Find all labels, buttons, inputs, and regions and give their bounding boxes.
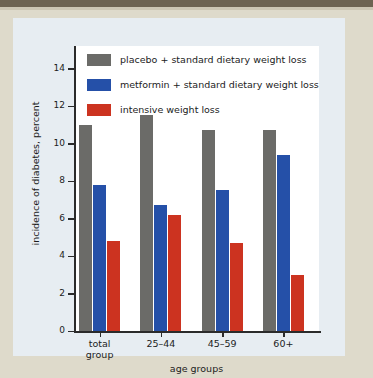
legend-label: intensive weight loss — [120, 104, 220, 115]
bar-intensive — [230, 243, 243, 331]
x-axis-category-label: total group — [70, 338, 130, 360]
y-axis-tick — [68, 68, 75, 70]
legend-item: intensive weight loss — [87, 100, 317, 119]
page-background: 02468101214 incidence of diabetes, perce… — [0, 0, 373, 378]
page-top-band — [0, 0, 373, 7]
y-axis-tick — [68, 143, 75, 145]
bar-intensive — [168, 215, 181, 331]
y-axis-tick-label: 0 — [59, 326, 65, 335]
legend-item: metformin + standard dietary weight loss — [87, 75, 317, 94]
figure-panel: 02468101214 incidence of diabetes, perce… — [13, 18, 345, 356]
bar-placebo — [202, 130, 215, 331]
chart-legend: placebo + standard dietary weight loss m… — [87, 50, 317, 125]
y-axis-tick — [68, 331, 75, 333]
bar-placebo — [79, 125, 92, 331]
y-axis-tick — [68, 181, 75, 183]
legend-label: placebo + standard dietary weight loss — [120, 54, 307, 65]
y-axis-tick-label: 14 — [54, 64, 65, 73]
bar-intensive — [107, 241, 120, 331]
legend-label: metformin + standard dietary weight loss — [120, 79, 319, 90]
bar-metformin — [277, 155, 290, 331]
y-axis-tick-label: 6 — [59, 214, 65, 223]
y-axis-tick-label: 8 — [59, 176, 65, 185]
legend-swatch-intensive-icon — [87, 104, 111, 116]
bar-metformin — [216, 190, 229, 331]
x-axis-tick — [100, 331, 102, 337]
x-axis-title: age groups — [74, 363, 319, 374]
y-axis-tick — [68, 256, 75, 258]
x-axis-category-label: 25–44 — [131, 338, 191, 349]
y-axis-tick-label: 12 — [54, 101, 65, 110]
y-axis-tick-label: 4 — [59, 251, 65, 260]
y-axis-tick — [68, 106, 75, 108]
bar-metformin — [154, 205, 167, 331]
x-axis-tick — [222, 331, 224, 337]
x-axis-category-label: 45–59 — [192, 338, 252, 349]
x-axis-category-label: 60+ — [253, 338, 313, 349]
bar-placebo — [263, 130, 276, 331]
legend-swatch-placebo-icon — [87, 54, 111, 66]
y-axis-tick-label: 2 — [59, 289, 65, 298]
bar-intensive — [291, 275, 304, 331]
x-axis-tick — [161, 331, 163, 337]
page-top-band-secondary — [0, 7, 373, 10]
x-axis-ticks — [74, 331, 319, 332]
bar-metformin — [93, 185, 106, 331]
x-axis-tick — [283, 331, 285, 337]
legend-item: placebo + standard dietary weight loss — [87, 50, 317, 69]
legend-swatch-metformin-icon — [87, 79, 111, 91]
y-axis-tick — [68, 218, 75, 220]
y-axis-tick-label: 10 — [54, 139, 65, 148]
y-axis-tick — [68, 293, 75, 295]
y-axis-title: incidence of diabetes, percent — [30, 89, 41, 259]
bar-placebo — [140, 115, 153, 331]
